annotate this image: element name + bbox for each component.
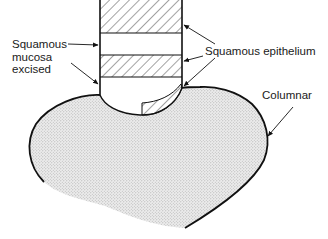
mucosa-diagram — [0, 0, 328, 239]
label-line: mucosa — [12, 51, 67, 64]
label-squamous-epithelium: Squamous epithelium — [205, 45, 316, 58]
arrow-mucosa-excised-1 — [68, 44, 98, 45]
label-squamous-mucosa-excised: Squamous mucosa excised — [12, 38, 67, 76]
squamous-band-middle — [100, 55, 182, 77]
label-columnar: Columnar — [262, 89, 312, 102]
label-line: Squamous — [12, 38, 67, 51]
arrow-mucosa-excised-2 — [71, 63, 98, 84]
arrow-squamous-epithelium-2 — [184, 56, 203, 61]
arrow-columnar — [268, 107, 293, 136]
label-line: excised — [12, 63, 67, 76]
excised-specimen-column — [100, 0, 182, 95]
squamous-band-top — [100, 0, 182, 33]
arrow-squamous-epithelium-3 — [184, 58, 215, 86]
arrow-squamous-epithelium-1 — [184, 25, 215, 44]
